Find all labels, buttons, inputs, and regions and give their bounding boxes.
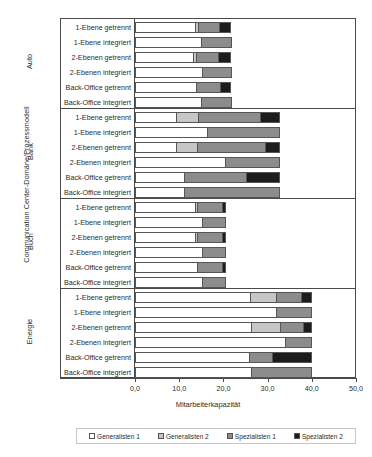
bar-segment <box>196 52 218 63</box>
bar-segment <box>276 292 301 303</box>
bar-segment <box>135 292 250 303</box>
bar-segment <box>135 322 251 333</box>
bar-segment <box>197 232 222 243</box>
bar-segment <box>202 67 232 78</box>
bar-row <box>135 127 280 138</box>
bar-segment <box>198 112 259 123</box>
bar-row <box>135 322 312 333</box>
legend-label: Generalisten 1 <box>97 433 140 440</box>
bar-row <box>135 97 232 108</box>
bar-segment <box>135 37 201 48</box>
legend-swatch-icon <box>227 433 233 439</box>
bar-segment <box>220 82 231 93</box>
bar-segment <box>184 172 246 183</box>
bar-segment <box>249 352 272 363</box>
bar-segment <box>135 352 249 363</box>
bar-segment <box>202 277 227 288</box>
bar-row <box>135 292 312 303</box>
group-label-text: Auto <box>26 54 35 69</box>
bar-segment <box>135 202 195 213</box>
bar-segment <box>135 262 197 273</box>
bar-row <box>135 307 312 318</box>
bar-row <box>135 112 280 123</box>
bar-row <box>135 67 232 78</box>
bar-row <box>135 82 231 93</box>
bar-segment <box>303 322 312 333</box>
chart-figure: Communication Center-Domäne/Prozessmodel… <box>0 0 372 457</box>
bar-segment <box>272 352 312 363</box>
bar-segment <box>202 247 226 258</box>
x-tick <box>268 378 269 382</box>
bar-segment <box>135 157 225 168</box>
bar-segment <box>225 157 280 168</box>
group-label-buch: Buch <box>0 237 60 246</box>
x-tick <box>356 378 357 382</box>
bar-segment <box>251 322 280 333</box>
bar-segment <box>135 217 202 228</box>
group-label-text: Buch <box>25 233 34 250</box>
bar-segment <box>135 67 202 78</box>
bar-segment <box>285 337 312 348</box>
x-tick-label: 40,0 <box>305 384 319 393</box>
legend-label: Spezialisten 2 <box>302 433 343 440</box>
bar-row <box>135 52 231 63</box>
bar-segment <box>196 82 219 93</box>
bar-segment <box>135 187 184 198</box>
bar-segment <box>176 112 199 123</box>
bar-segment <box>201 97 231 108</box>
bar-row <box>135 172 280 183</box>
bar-segment <box>176 142 197 153</box>
legend-label: Generalisten 2 <box>166 433 209 440</box>
bar-segment <box>135 232 195 243</box>
x-tick <box>179 378 180 382</box>
bar-row <box>135 202 226 213</box>
bar-segment <box>202 217 227 228</box>
bar-row <box>135 277 226 288</box>
bar-segment <box>135 172 184 183</box>
bar-row <box>135 367 312 378</box>
bar-segment <box>251 367 312 378</box>
bar-segment <box>135 367 251 378</box>
bar-row <box>135 352 312 363</box>
bar-row <box>135 262 226 273</box>
bar-segment <box>260 112 280 123</box>
bar-segment <box>135 127 207 138</box>
bar-segment <box>135 307 276 318</box>
bar-segment <box>135 97 201 108</box>
x-axis-title: Mitarbeiterkapazität <box>60 400 356 409</box>
bar-segment <box>197 202 222 213</box>
bar-segment <box>135 112 176 123</box>
bar-row <box>135 22 231 33</box>
x-tick-label: 10,0 <box>172 384 186 393</box>
bar-row <box>135 247 226 258</box>
group-label-text: Bank <box>25 143 34 160</box>
bar-segment <box>301 292 312 303</box>
bar-segment <box>246 172 280 183</box>
bar-row <box>135 187 280 198</box>
group-label-text: Energie <box>25 319 34 344</box>
group-label-energie: Energie <box>0 327 60 336</box>
bar-row <box>135 157 280 168</box>
bar-segment <box>135 22 195 33</box>
bar-row <box>135 337 312 348</box>
bar-segment <box>218 52 231 63</box>
x-tick-label: 30,0 <box>261 384 275 393</box>
x-tick-label: 20,0 <box>216 384 230 393</box>
bar-segment <box>250 292 276 303</box>
bar-segment <box>219 22 231 33</box>
legend-item: Spezialisten 1 <box>227 433 276 440</box>
bar-segment <box>265 142 280 153</box>
legend-item: Generalisten 2 <box>158 433 209 440</box>
bar-segment <box>280 322 303 333</box>
legend-swatch-icon <box>158 433 164 439</box>
bar-row <box>135 37 232 48</box>
bar-segment <box>135 337 285 348</box>
x-tick-label: 0,0 <box>130 384 140 393</box>
bar-segment <box>222 232 227 243</box>
bars-area <box>135 18 356 378</box>
x-tick-label: 50,0 <box>349 384 363 393</box>
legend-item: Spezialisten 2 <box>294 433 343 440</box>
bar-segment <box>207 127 280 138</box>
bar-segment <box>201 37 231 48</box>
chart-legend: Generalisten 1Generalisten 2Spezialisten… <box>76 428 356 444</box>
